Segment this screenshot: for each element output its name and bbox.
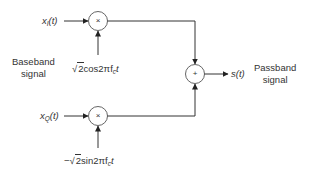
- baseband-line1: Baseband: [12, 56, 55, 68]
- sin-rest: sin2πf: [81, 155, 108, 166]
- bottom-path-to-adder: [108, 84, 196, 116]
- baseband-signal-label: Baseband signal: [12, 56, 55, 80]
- cos-carrier-label: √2cos2πfct: [72, 63, 119, 77]
- multiply-icon-bottom: ×: [89, 107, 107, 125]
- xi-arg: (t): [49, 15, 58, 26]
- sin-radical: 2: [75, 154, 81, 166]
- passband-line2: signal: [254, 74, 296, 86]
- sin-suffix: t: [111, 155, 114, 166]
- xq-arg: (t): [50, 110, 59, 121]
- sin-carrier-label: −√2sin2πfct: [64, 155, 114, 169]
- cos-suffix: t: [116, 63, 119, 74]
- sqrt-icon: √2: [70, 155, 82, 166]
- output-signal-label: s(t): [231, 68, 245, 79]
- xq-input-label: xQ(t): [40, 110, 59, 124]
- multiply-icon-top: ×: [89, 12, 107, 30]
- top-path-to-adder: [108, 21, 196, 64]
- sqrt-icon: √2: [72, 63, 84, 74]
- cos-radical: 2: [77, 62, 83, 74]
- baseband-line2: signal: [12, 68, 55, 80]
- xi-input-label: xI(t): [42, 15, 58, 29]
- iq-modulator-diagram: × × + xI(t) xQ(t) Baseband signal √2cos2…: [0, 0, 313, 180]
- passband-signal-label: Passband signal: [254, 62, 296, 86]
- plus-icon-adder: +: [186, 65, 204, 83]
- cos-rest: cos2πf: [84, 63, 113, 74]
- passband-line1: Passband: [254, 62, 296, 74]
